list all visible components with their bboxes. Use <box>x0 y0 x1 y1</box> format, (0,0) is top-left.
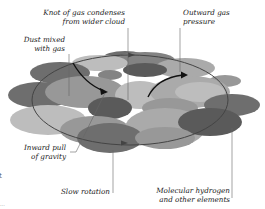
label-inward-line1: Inward pull <box>24 143 66 152</box>
label-molecular-hydrogen: Molecular hydrogen and other elements <box>156 186 230 204</box>
label-hydrogen-line1: Molecular hydrogen <box>156 186 230 195</box>
label-dust-line1: Dust mixed <box>24 35 65 44</box>
label-rotation-line1: Slow rotation <box>61 187 110 196</box>
label-inward-line2: of gravity <box>24 152 66 161</box>
edge-text-fragment-2: ... <box>0 200 5 209</box>
edge-fragment-1-text: t <box>0 171 2 180</box>
label-outward-line2: pressure <box>183 17 230 26</box>
label-dust-line2: with gas <box>24 44 65 53</box>
label-inward-gravity: Inward pull of gravity <box>24 143 66 161</box>
label-knot-line2: from wider cloud <box>43 17 125 26</box>
label-outward-pressure: Outward gas pressure <box>183 8 230 26</box>
label-dust: Dust mixed with gas <box>24 35 65 53</box>
label-outward-line1: Outward gas <box>183 8 230 17</box>
label-hydrogen-line2: and other elements <box>156 195 230 204</box>
edge-text-fragment-1: t <box>0 171 2 180</box>
label-knot-line1: Knot of gas condenses <box>43 8 125 17</box>
edge-fragment-2-text: ... <box>0 201 5 207</box>
label-knot: Knot of gas condenses from wider cloud <box>43 8 125 26</box>
gas-cloud-blobs <box>8 51 260 153</box>
cloud-diagram <box>0 0 265 209</box>
label-slow-rotation: Slow rotation <box>61 187 110 196</box>
